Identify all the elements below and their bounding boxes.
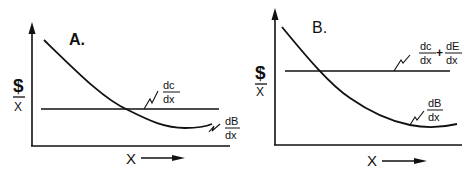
panel-b-y-axis-arrow-icon — [272, 8, 279, 20]
panel-b: B. $ X dc dx + dE dx dB dx X — [255, 8, 462, 169]
panel-b-y-label-bottom: X — [256, 85, 264, 99]
panel-b-benefit-label-den: dx — [428, 111, 440, 123]
panel-b-cost-label-den2: dx — [446, 54, 458, 66]
diagram-canvas: A. $ X dc dx dB dx X B. $ X — [0, 0, 472, 175]
panel-b-benefit-leader-icon — [410, 111, 424, 125]
panel-a-cost-label-num: dc — [163, 79, 175, 91]
panel-b-y-label-top: $ — [255, 62, 266, 83]
panel-a-x-arrow-icon — [172, 155, 185, 161]
panel-b-cost-label-plus: + — [436, 46, 443, 60]
panel-b-cost-label-den1: dx — [420, 54, 432, 66]
panel-a-cost-leader-icon — [144, 91, 158, 109]
panel-a-cost-label-den: dx — [163, 93, 175, 105]
panel-b-cost-label-num2: dE — [446, 40, 459, 52]
panel-b-x-arrow-icon — [414, 158, 427, 164]
panel-a-benefit-label-num: dB — [225, 115, 238, 127]
panel-b-benefit-label-num: dB — [428, 97, 441, 109]
panel-a-y-label-top: $ — [13, 75, 24, 96]
panel-b-cost-leader-icon — [394, 55, 410, 71]
panel-b-title: B. — [312, 19, 327, 36]
panel-a-benefit-label-den: dx — [225, 129, 237, 141]
panel-b-cost-label-num1: dc — [420, 40, 432, 52]
panel-a-benefit-curve — [44, 40, 212, 128]
panel-a: A. $ X dc dx dB dx X — [13, 22, 240, 167]
panel-a-title: A. — [69, 31, 85, 48]
panel-a-y-axis-arrow-icon — [29, 22, 36, 34]
panel-a-x-label: X — [126, 150, 136, 167]
panel-a-y-label-bottom: X — [14, 100, 22, 114]
panel-b-x-label: X — [367, 152, 377, 169]
